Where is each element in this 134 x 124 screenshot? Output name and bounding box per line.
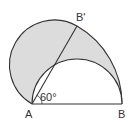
geometry-diagram: 60° A B B' <box>0 0 134 124</box>
point-b-prime-label: B' <box>76 11 85 23</box>
point-a-label: A <box>25 108 33 120</box>
angle-label: 60° <box>40 91 57 103</box>
point-b-label: B <box>118 108 125 120</box>
